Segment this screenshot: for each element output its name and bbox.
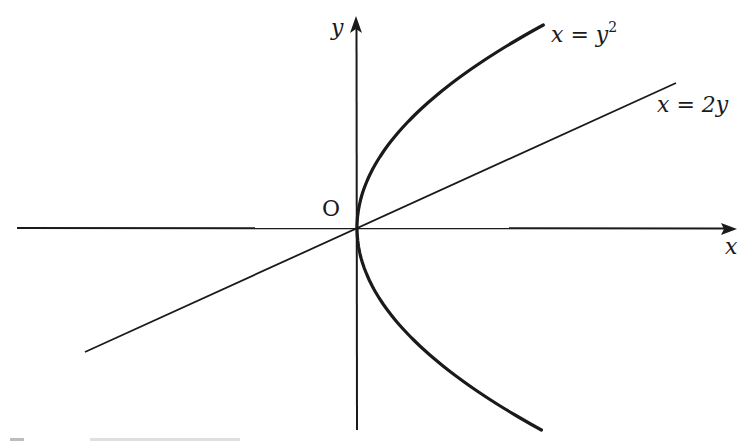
parabola-label-base: x = y xyxy=(551,22,609,47)
parabola-line-diagram: y x O x = y2 x = 2y xyxy=(0,0,749,441)
parabola-label-exponent: 2 xyxy=(608,19,617,35)
parabola-label: x = y2 xyxy=(551,19,617,47)
line-x-equals-2y xyxy=(85,83,676,352)
x-axis xyxy=(17,223,737,235)
y-axis-label: y xyxy=(330,15,344,40)
x-axis-label: x xyxy=(725,234,738,259)
clipped-caption xyxy=(10,432,240,441)
line-label: x = 2y xyxy=(657,92,729,117)
origin-label: O xyxy=(322,196,340,221)
